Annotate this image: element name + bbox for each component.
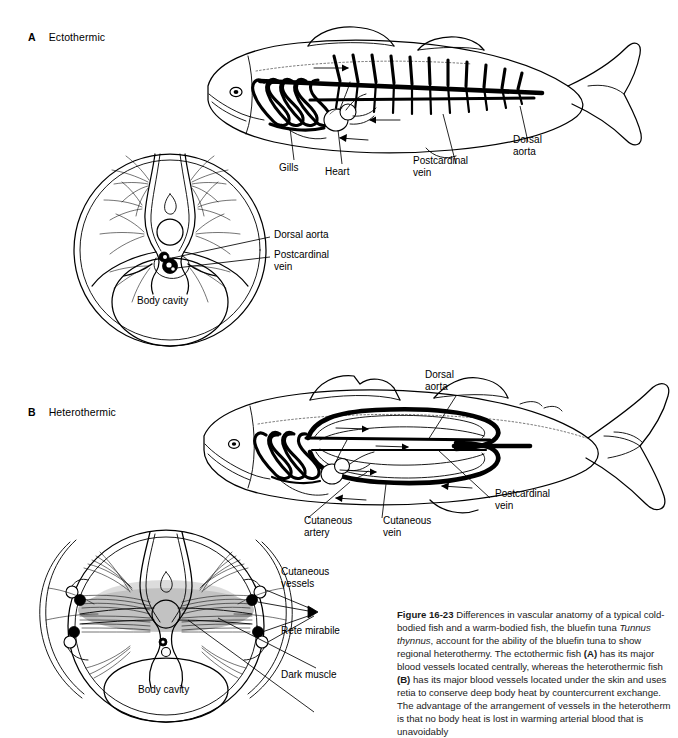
figure-number: Figure 16-23 — [397, 609, 454, 620]
label-section-dorsal-aorta: Dorsal aorta — [274, 229, 328, 241]
label-postcardinal-vein: Postcardinal vein — [413, 155, 468, 178]
label-cutaneous-vein: Cutaneous vein — [383, 515, 431, 538]
panel-b-heading: BHeterothermic — [28, 406, 116, 418]
heterothermic-tuna-diagram — [190, 378, 678, 523]
caption-bold-b: (B) — [397, 674, 410, 685]
caption-bold-a: (A) — [584, 648, 597, 659]
label-b-body-cavity: Body cavity — [138, 684, 189, 696]
panel-b-letter: B — [28, 406, 36, 418]
label-rete-mirabile: Rete mirabile — [281, 625, 340, 637]
panel-a-heading: AEctothermic — [28, 31, 105, 43]
caption-part-4: has its major blood vessels located unde… — [397, 674, 671, 737]
panel-b-title: Heterothermic — [49, 406, 116, 418]
label-section-postcardinal-vein: Postcardinal vein — [274, 249, 329, 272]
label-cutaneous-vessels: Cutaneous vessels — [281, 566, 329, 589]
label-dorsal-aorta: Dorsal aorta — [513, 134, 542, 157]
ectothermic-fish-diagram — [190, 24, 670, 164]
label-b-dorsal-aorta: Dorsal aorta — [425, 369, 454, 392]
label-b-postcardinal-vein: Postcardinal vein — [495, 488, 550, 511]
panel-a-title: Ectothermic — [49, 31, 106, 43]
panel-a-letter: A — [28, 31, 36, 43]
figure-caption: Figure 16-23 Differences in vascular ana… — [397, 608, 675, 738]
label-dark-muscle: Dark muscle — [281, 669, 337, 681]
label-section-body-cavity: Body cavity — [137, 295, 188, 307]
